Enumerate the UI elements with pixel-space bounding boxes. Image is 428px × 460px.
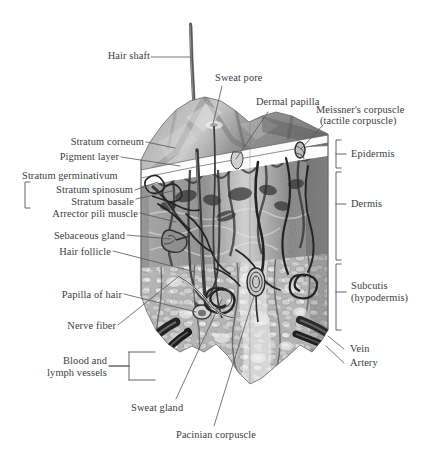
label-meissners-corpuscle: Meissner's corpuscle <box>316 104 404 116</box>
label-stratum-germinativum: Stratum germinativum <box>22 170 118 182</box>
label-sebaceous-gland: Sebaceous gland <box>38 230 125 242</box>
dermal-papilla-structure <box>231 152 243 169</box>
label-stratum-basale: Stratum basale <box>34 196 134 208</box>
label-meissners-corpuscle-alt: (tactile corpuscle) <box>320 115 397 127</box>
label-hair-shaft: Hair shaft <box>54 50 150 62</box>
label-papilla-of-hair: Papilla of hair <box>30 289 122 301</box>
label-pacinian-corpuscle: Pacinian corpuscle <box>176 429 256 441</box>
label-dermal-papilla: Dermal papilla <box>256 96 319 108</box>
label-sweat-gland: Sweat gland <box>131 402 183 414</box>
label-nerve-fiber: Nerve fiber <box>36 320 116 332</box>
label-sweat-pore: Sweat pore <box>215 72 262 84</box>
label-blood-lymph-vessels: Blood and <box>18 355 107 367</box>
label-pigment-layer: Pigment layer <box>46 151 119 163</box>
label-stratum-corneum: Stratum corneum <box>46 136 144 148</box>
label-artery: Artery <box>350 357 378 369</box>
label-stratum-spinosum: Stratum spinosum <box>34 184 133 196</box>
meissner-corpuscle-structure <box>295 142 305 159</box>
label-blood-lymph-vessels-alt: lymph vessels <box>18 367 107 379</box>
label-vein: Vein <box>350 343 369 355</box>
label-dermis: Dermis <box>351 198 382 210</box>
figure-canvas: Hair shaft Sweat pore Dermal papilla Mei… <box>0 0 428 460</box>
label-subcutis: Subcutis <box>351 280 388 292</box>
label-epidermis: Epidermis <box>351 148 395 160</box>
label-arrector-pili-muscle: Arrector pili muscle <box>36 208 138 220</box>
label-subcutis-alt: (hypodermis) <box>351 292 408 304</box>
label-hair-follicle: Hair follicle <box>38 246 111 258</box>
